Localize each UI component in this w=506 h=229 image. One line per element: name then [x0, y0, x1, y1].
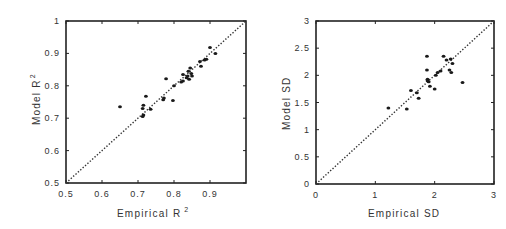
- x-axis-title-r2: Empirical R2: [117, 206, 189, 219]
- y-axis-title-r2: Model R2: [29, 73, 42, 125]
- x-axis-title-sd: Empirical SD: [368, 208, 440, 219]
- y-axis-title-sd: Model SD: [281, 76, 292, 130]
- axis-titles: Empirical R2 Model R2 Empirical SD Model…: [0, 0, 506, 229]
